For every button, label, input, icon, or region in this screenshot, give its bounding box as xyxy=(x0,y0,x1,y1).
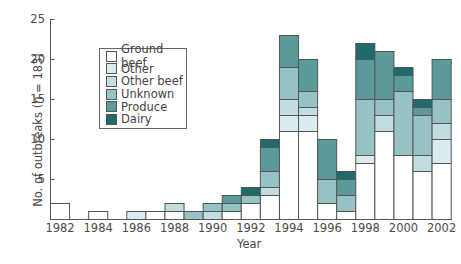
bar-1998 xyxy=(356,44,375,220)
bar-segment-other-beef xyxy=(413,156,432,172)
x-tick-label: 1988 xyxy=(155,221,195,235)
bar-segment-unknown xyxy=(375,100,394,116)
x-tick-label: 1982 xyxy=(40,221,80,235)
bar-segment-other-beef xyxy=(375,116,394,132)
bar-segment-unknown xyxy=(279,68,298,100)
bar-segment-ground-beef xyxy=(241,204,260,220)
y-axis-title-suffix: = 183) xyxy=(31,53,45,96)
bar-segment-ground-beef xyxy=(413,172,432,220)
bar-segment-other xyxy=(432,140,451,164)
bar-segment-unknown xyxy=(203,204,222,212)
bar-2000 xyxy=(394,68,413,220)
bar-segment-dairy xyxy=(356,44,375,60)
bar-segment-other xyxy=(127,212,146,220)
bar-segment-other-beef xyxy=(299,108,318,116)
x-tick-label: 1992 xyxy=(231,221,271,235)
bar-1991 xyxy=(222,196,241,220)
legend: Ground beefOtherOther beefUnknownProduce… xyxy=(99,48,187,129)
bar-segment-produce xyxy=(279,36,298,68)
bar-segment-other-beef xyxy=(432,124,451,140)
bar-segment-other-beef xyxy=(279,100,298,116)
bar-segment-unknown xyxy=(356,100,375,156)
bar-1988 xyxy=(165,204,184,220)
bar-segment-other xyxy=(356,156,375,164)
bar-segment-ground-beef xyxy=(279,132,298,220)
bar-segment-produce xyxy=(337,180,356,196)
legend-swatch xyxy=(106,51,117,62)
bar-1994 xyxy=(279,36,298,220)
bar-1992 xyxy=(241,188,260,220)
bar-1987 xyxy=(146,212,165,220)
x-axis-title: Year xyxy=(237,237,261,251)
x-tick-label: 1994 xyxy=(269,221,309,235)
bar-2002 xyxy=(432,60,451,220)
bar-segment-ground-beef xyxy=(337,212,356,220)
legend-item-produce: Produce xyxy=(106,100,186,113)
bar-segment-dairy xyxy=(241,188,260,196)
legend-swatch xyxy=(106,89,117,100)
bar-segment-ground-beef xyxy=(299,132,318,220)
legend-item-other-beef: Other beef xyxy=(106,75,186,88)
bar-segment-ground-beef xyxy=(222,212,241,220)
bar-segment-unknown xyxy=(394,92,413,156)
bar-segment-produce xyxy=(356,60,375,100)
bar-segment-produce xyxy=(318,140,337,180)
bar-segment-produce xyxy=(299,60,318,92)
bar-segment-unknown xyxy=(184,212,203,220)
bar-segment-produce xyxy=(413,108,432,116)
legend-item-dairy: Dairy xyxy=(106,113,186,126)
bar-segment-produce xyxy=(394,76,413,92)
y-tick-label: 25 xyxy=(21,12,45,26)
legend-swatch xyxy=(106,101,117,112)
bar-segment-ground-beef xyxy=(318,204,337,220)
bar-1996 xyxy=(318,140,337,220)
bar-segment-ground-beef xyxy=(394,156,413,220)
bar-segment-ground-beef xyxy=(260,196,279,220)
legend-swatch xyxy=(106,114,117,125)
legend-swatch xyxy=(106,63,117,74)
bar-1997 xyxy=(337,172,356,220)
bar-1999 xyxy=(375,52,394,220)
bar-segment-dairy xyxy=(337,172,356,180)
bar-segment-other-beef xyxy=(203,212,222,220)
legend-swatch xyxy=(106,76,117,87)
x-tick-label: 1984 xyxy=(78,221,118,235)
bar-1989 xyxy=(184,212,203,220)
bar-segment-unknown xyxy=(241,196,260,204)
bar-2001 xyxy=(413,100,432,220)
bar-1990 xyxy=(203,204,222,220)
bar-segment-ground-beef xyxy=(375,132,394,220)
bar-segment-unknown xyxy=(260,172,279,188)
stacked-bar-chart: 510152025 198219841986198819901992199419… xyxy=(0,0,461,264)
bar-segment-other-beef xyxy=(260,188,279,196)
bar-segment-unknown xyxy=(432,100,451,124)
bar-1995 xyxy=(299,60,318,220)
x-tick-label: 2002 xyxy=(422,221,461,235)
bar-segment-ground-beef xyxy=(356,164,375,220)
legend-item-ground-beef: Ground beef xyxy=(106,50,186,63)
bar-1984 xyxy=(89,212,108,220)
y-axis-title-prefix: No. of outbreaks ( xyxy=(31,104,45,207)
bar-segment-unknown xyxy=(318,180,337,204)
legend-label: Dairy xyxy=(121,112,152,126)
bar-segment-unknown xyxy=(413,116,432,156)
bar-segment-ground-beef xyxy=(51,204,70,220)
bar-segment-ground-beef xyxy=(165,212,184,220)
bar-segment-dairy xyxy=(260,140,279,148)
bar-segment-produce xyxy=(260,148,279,172)
bar-segment-produce xyxy=(375,52,394,100)
bar-segment-ground-beef xyxy=(146,212,165,220)
legend-item-unknown: Unknown xyxy=(106,88,186,101)
x-tick-label: 2000 xyxy=(383,221,423,235)
bar-1982 xyxy=(51,204,70,220)
bar-segment-other-beef xyxy=(165,204,184,212)
bar-1986 xyxy=(127,212,146,220)
x-tick-label: 1998 xyxy=(345,221,385,235)
bar-segment-unknown xyxy=(222,204,241,212)
bar-segment-dairy xyxy=(394,68,413,76)
bar-segment-unknown xyxy=(337,196,356,212)
bar-segment-produce xyxy=(432,60,451,100)
x-tick-label: 1986 xyxy=(116,221,156,235)
bar-segment-other xyxy=(279,116,298,132)
bar-segment-unknown xyxy=(299,92,318,108)
